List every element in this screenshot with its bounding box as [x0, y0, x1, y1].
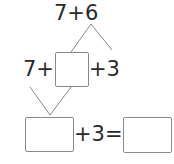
bottom-left-answer-box[interactable] — [25, 117, 74, 152]
top-expression: 7+6 — [54, 3, 98, 24]
middle-prefix: 7+ — [23, 59, 54, 80]
bottom-right-answer-box[interactable] — [123, 117, 172, 153]
middle-suffix: +3 — [89, 59, 120, 80]
bottom-operator: +3= — [74, 124, 123, 145]
middle-answer-box[interactable] — [55, 52, 89, 87]
